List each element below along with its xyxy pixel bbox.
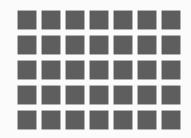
grid-tile [138,11,156,29]
grid-tile [66,61,84,79]
grid-tile [162,11,180,29]
grid-tile [66,36,84,54]
grid-tile [18,36,36,54]
grid-tile [90,61,108,79]
grid-tile [138,86,156,104]
grid-tile [18,11,36,29]
grid-tile [90,11,108,29]
grid-tile [114,86,132,104]
grid-tile [114,61,132,79]
grid-tile [114,36,132,54]
grid-tile [18,111,36,129]
grid-tile [138,36,156,54]
grid-tile [18,86,36,104]
grid-tile [18,61,36,79]
grid-tile [162,61,180,79]
grid-tile [90,36,108,54]
grid-tile [90,111,108,129]
grid-tile [42,111,60,129]
grid-tile [162,36,180,54]
grid-tile [90,86,108,104]
grid-tile [42,86,60,104]
grid-tile [66,111,84,129]
grid-tile [42,11,60,29]
square-grid [18,11,180,129]
grid-tile [114,11,132,29]
grid-tile [138,111,156,129]
grid-tile [42,36,60,54]
grid-tile [66,86,84,104]
grid-tile [138,61,156,79]
grid-tile [162,111,180,129]
grid-tile [42,61,60,79]
grid-tile [162,86,180,104]
grid-tile [114,111,132,129]
grid-tile [66,11,84,29]
